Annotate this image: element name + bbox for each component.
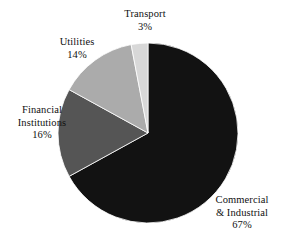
- pie-label-commercial-name-line1: Commercial: [194, 194, 290, 207]
- pie-label-utilities: Utilities 14%: [38, 36, 116, 61]
- pie-label-commercial-industrial: Commercial & Industrial 67%: [194, 194, 290, 232]
- pie-label-utilities-name: Utilities: [38, 36, 116, 49]
- pie-label-financial-name-line1: Financial: [2, 104, 82, 117]
- pie-label-financial-value: 16%: [2, 129, 82, 142]
- pie-label-utilities-value: 14%: [38, 49, 116, 62]
- pie-chart-figure: Transport 3% Utilities 14% Financial Ins…: [0, 0, 292, 247]
- pie-label-transport-value: 3%: [104, 21, 186, 34]
- pie-label-financial-institutions: Financial Institutions 16%: [2, 104, 82, 142]
- pie-label-commercial-value: 67%: [194, 219, 290, 232]
- pie-label-financial-name-line2: Institutions: [2, 117, 82, 130]
- pie-label-transport-name: Transport: [104, 8, 186, 21]
- pie-label-transport: Transport 3%: [104, 8, 186, 33]
- pie-label-commercial-name-line2: & Industrial: [194, 207, 290, 220]
